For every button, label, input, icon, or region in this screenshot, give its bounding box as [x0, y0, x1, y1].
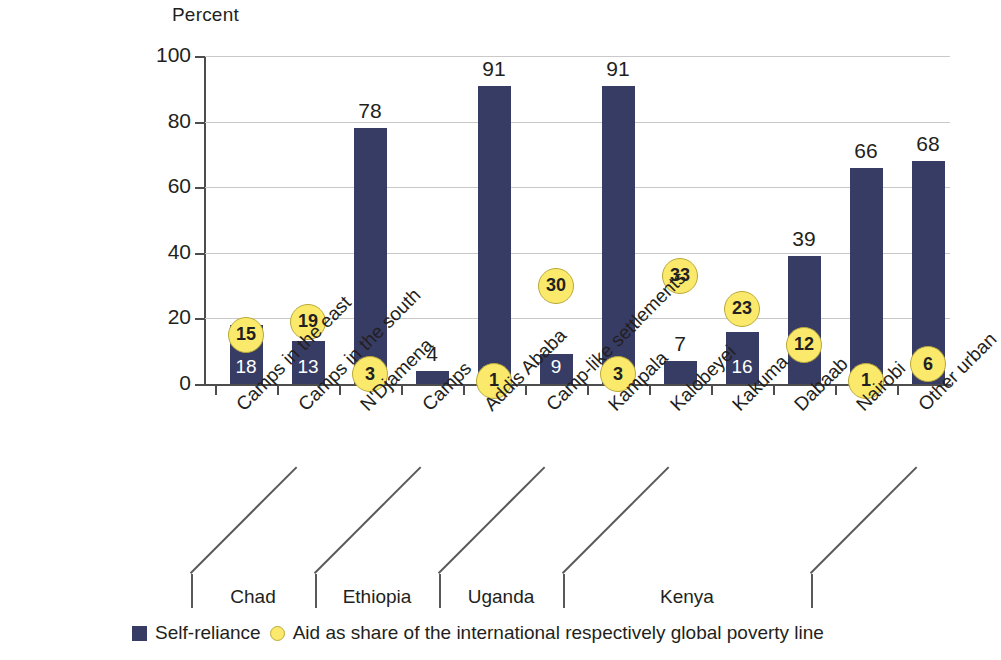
bracket-diagonal — [438, 467, 545, 574]
bar[interactable] — [478, 86, 511, 384]
x-tick-mark — [897, 386, 899, 395]
group-bracket — [811, 574, 935, 608]
y-axis-title: Percent — [172, 4, 239, 26]
bar-value-label: 91 — [463, 57, 525, 81]
bar-value-label: 66 — [835, 139, 897, 163]
x-category-label: Camps — [418, 357, 476, 415]
x-tick-mark — [587, 386, 589, 395]
x-tick-mark — [711, 386, 713, 395]
bracket-stem — [191, 574, 193, 608]
group-label: Kenya — [647, 586, 727, 608]
y-tick-label: 100 — [147, 43, 191, 67]
group-label: Chad — [213, 586, 293, 608]
bracket-diagonal — [190, 467, 297, 574]
x-tick-mark — [835, 386, 837, 395]
legend-square-icon — [132, 626, 147, 641]
group-label: Ethiopia — [337, 586, 417, 608]
gridline — [205, 122, 950, 123]
x-tick-mark — [525, 386, 527, 395]
legend-item[interactable]: Self-reliance — [132, 622, 261, 644]
y-tick-mark — [195, 56, 205, 58]
aid-share-dot[interactable]: 15 — [228, 317, 264, 353]
x-tick-mark — [773, 386, 775, 395]
y-tick-mark — [195, 384, 205, 386]
y-tick-label: 0 — [147, 371, 191, 395]
aid-share-dot[interactable]: 30 — [538, 268, 574, 304]
chart-legend: Self-relianceAid as share of the interna… — [0, 622, 956, 644]
legend-label: Self-reliance — [155, 622, 261, 644]
bar-value-label: 39 — [773, 227, 835, 251]
y-axis-line — [204, 56, 206, 386]
y-tick-label: 20 — [147, 305, 191, 329]
bracket-stem — [315, 574, 317, 608]
bracket-stem — [811, 574, 813, 608]
y-tick-label: 60 — [147, 174, 191, 198]
gridline — [205, 253, 950, 254]
legend-circle-icon — [270, 626, 285, 641]
x-tick-mark — [649, 386, 651, 395]
bar[interactable] — [850, 168, 883, 384]
bracket-stem — [563, 574, 565, 608]
gridline — [205, 56, 950, 57]
bar-value-label: 78 — [339, 99, 401, 123]
legend-item[interactable]: Aid as share of the international respec… — [270, 622, 824, 644]
x-tick-mark — [277, 386, 279, 395]
x-tick-mark — [401, 386, 403, 395]
bracket-diagonal — [314, 467, 421, 574]
group-label: Uganda — [461, 586, 541, 608]
bracket-diagonal — [562, 467, 669, 574]
x-tick-mark — [463, 386, 465, 395]
aid-share-dot[interactable]: 12 — [786, 327, 822, 363]
gridline — [205, 187, 950, 188]
aid-share-dot[interactable]: 23 — [724, 291, 760, 327]
bar-value-label: 91 — [587, 57, 649, 81]
legend-label: Aid as share of the international respec… — [293, 622, 824, 644]
y-tick-mark — [195, 318, 205, 320]
y-tick-mark — [195, 122, 205, 124]
x-tick-mark — [215, 386, 217, 395]
y-tick-label: 80 — [147, 109, 191, 133]
y-tick-mark — [195, 253, 205, 255]
bracket-diagonal — [810, 467, 917, 574]
bar-value-label: 68 — [897, 132, 959, 156]
y-tick-label: 40 — [147, 240, 191, 264]
bracket-stem — [439, 574, 441, 608]
x-tick-mark — [339, 386, 341, 395]
y-tick-mark — [195, 187, 205, 189]
